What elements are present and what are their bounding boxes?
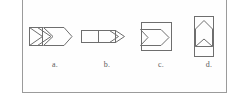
figure-d: d. [181,15,237,77]
figure-b-drawing [79,15,135,59]
figure-a-art [27,15,83,59]
figure-a: a. [27,15,83,77]
figure-d-art [181,15,237,59]
figure-a-drawing [27,15,83,59]
figure-d-drawing [181,15,237,59]
figure-d-label: d. [181,59,237,71]
figure-b-art [79,15,135,59]
image-root: a. b. [0,0,240,98]
figure-b-label: b. [79,59,135,71]
figure-panel: a. b. [22,0,227,93]
figure-b: b. [79,15,135,77]
figure-row: a. b. [23,0,228,94]
figure-a-label: a. [27,59,83,71]
